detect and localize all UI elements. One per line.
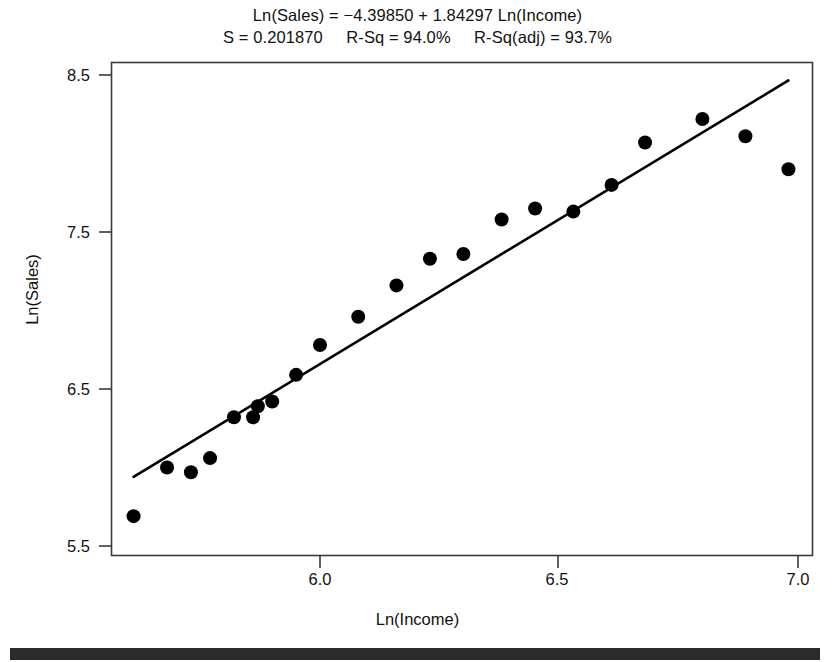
data-point (738, 129, 752, 143)
data-point (638, 136, 652, 150)
data-point (389, 278, 403, 292)
plot-area (0, 0, 835, 662)
data-point (456, 247, 470, 261)
axis-ticks (99, 75, 798, 568)
data-point (351, 310, 365, 324)
data-point (160, 461, 174, 475)
data-point (289, 368, 303, 382)
data-point (781, 162, 795, 176)
data-point (184, 465, 198, 479)
footer-bar (10, 648, 820, 660)
plot-frame (112, 63, 813, 556)
data-point (695, 112, 709, 126)
data-point (203, 451, 217, 465)
data-point (423, 252, 437, 266)
data-point (227, 410, 241, 424)
data-point-group (127, 112, 796, 523)
data-point (265, 395, 279, 409)
data-point (605, 178, 619, 192)
data-point (313, 338, 327, 352)
chart-canvas: Ln(Sales) = −4.39850 + 1.84297 Ln(Income… (0, 0, 835, 662)
data-point (495, 212, 509, 226)
data-point (127, 509, 141, 523)
data-point (566, 205, 580, 219)
data-point (528, 201, 542, 215)
data-point (251, 399, 265, 413)
